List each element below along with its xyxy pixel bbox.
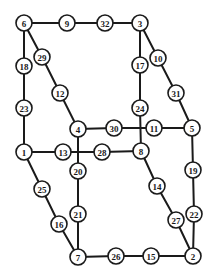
node-label: 25 — [38, 185, 48, 195]
node-label: 3 — [138, 19, 143, 29]
node-13: 13 — [55, 144, 71, 160]
node-27: 27 — [168, 212, 184, 228]
node-label: 27 — [172, 216, 182, 226]
node-31: 31 — [168, 85, 184, 101]
node-22: 22 — [186, 206, 202, 222]
node-label: 18 — [20, 62, 30, 72]
node-label: 16 — [55, 220, 65, 230]
node-label: 13 — [59, 148, 69, 158]
node-label: 30 — [110, 124, 120, 134]
node-label: 26 — [112, 252, 122, 262]
node-15: 15 — [143, 248, 159, 264]
node-label: 15 — [147, 252, 157, 262]
node-label: 1 — [22, 148, 27, 158]
node-21: 21 — [70, 206, 86, 222]
node-label: 28 — [98, 148, 108, 158]
node-30: 30 — [106, 120, 122, 136]
node-28: 28 — [94, 144, 110, 160]
node-label: 32 — [101, 19, 111, 29]
node-layer: 6932329181017123123244301151132882019251… — [16, 15, 202, 265]
node-label: 31 — [172, 89, 182, 99]
node-label: 17 — [136, 61, 146, 71]
node-3: 3 — [132, 15, 148, 31]
node-6: 6 — [16, 15, 32, 31]
node-label: 9 — [65, 19, 70, 29]
node-label: 8 — [139, 147, 144, 157]
node-label: 21 — [74, 210, 84, 220]
node-12: 12 — [52, 85, 68, 101]
node-26: 26 — [108, 248, 124, 264]
node-label: 20 — [74, 167, 84, 177]
node-label: 23 — [20, 104, 30, 114]
node-label: 7 — [76, 253, 81, 263]
node-label: 12 — [56, 89, 66, 99]
node-9: 9 — [59, 15, 75, 31]
node-label: 5 — [190, 124, 195, 134]
node-5: 5 — [184, 120, 200, 136]
node-17: 17 — [132, 57, 148, 73]
node-label: 6 — [22, 19, 27, 29]
node-16: 16 — [51, 216, 67, 232]
node-7: 7 — [70, 249, 86, 265]
node-19: 19 — [185, 162, 201, 178]
node-25: 25 — [34, 181, 50, 197]
node-label: 11 — [150, 124, 159, 134]
node-11: 11 — [146, 120, 162, 136]
node-4: 4 — [70, 121, 86, 137]
node-label: 22 — [190, 210, 200, 220]
node-label: 14 — [153, 182, 163, 192]
node-label: 29 — [38, 53, 48, 63]
node-label: 4 — [76, 125, 81, 135]
graph-diagram: 6932329181017123123244301151132882019251… — [0, 0, 218, 279]
node-label: 24 — [136, 104, 146, 114]
node-label: 2 — [191, 252, 196, 262]
node-29: 29 — [34, 49, 50, 65]
node-18: 18 — [16, 58, 32, 74]
node-2: 2 — [185, 248, 201, 264]
node-label: 10 — [154, 54, 164, 64]
node-1: 1 — [16, 144, 32, 160]
node-10: 10 — [150, 50, 166, 66]
node-32: 32 — [97, 15, 113, 31]
node-23: 23 — [16, 100, 32, 116]
node-20: 20 — [70, 163, 86, 179]
node-14: 14 — [149, 178, 165, 194]
node-label: 19 — [189, 166, 199, 176]
node-24: 24 — [132, 100, 148, 116]
node-8: 8 — [133, 143, 149, 159]
